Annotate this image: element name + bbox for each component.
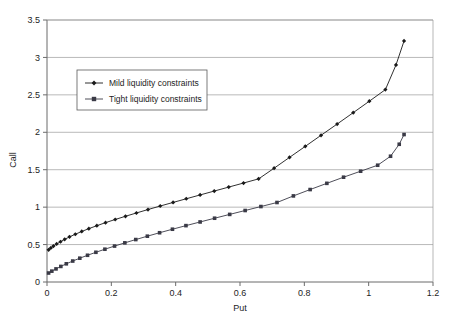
plot-frame xyxy=(47,20,433,282)
chart-container: 00.511.522.533.5 00.20.40.60.811.2 Mild … xyxy=(0,0,455,316)
data-point xyxy=(59,265,63,269)
data-point xyxy=(71,259,75,263)
data-point xyxy=(103,247,107,251)
y-tick-label: 3.5 xyxy=(27,15,40,25)
data-point xyxy=(198,193,202,197)
series-line-1 xyxy=(49,135,404,273)
data-point xyxy=(73,232,77,236)
y-axis-ticks: 00.511.522.533.5 xyxy=(27,15,47,287)
data-point xyxy=(158,231,162,235)
data-point xyxy=(376,163,380,167)
data-point xyxy=(227,185,231,189)
data-point xyxy=(47,271,51,275)
data-point xyxy=(212,189,216,193)
data-point xyxy=(95,224,99,228)
data-point xyxy=(308,188,312,192)
legend-label-0: Mild liquidity constraints xyxy=(109,78,199,88)
x-tick-label: 1.2 xyxy=(427,288,440,298)
x-tick-label: 0 xyxy=(44,288,49,298)
data-point xyxy=(397,142,401,146)
data-point xyxy=(241,181,245,185)
x-tick-label: 0.6 xyxy=(234,288,247,298)
data-point xyxy=(259,205,263,209)
data-point xyxy=(292,194,296,198)
data-point xyxy=(86,253,90,257)
data-point xyxy=(54,267,58,271)
y-tick-label: 0.5 xyxy=(27,240,40,250)
data-point xyxy=(65,262,69,266)
y-tick-label: 0 xyxy=(35,277,40,287)
data-point xyxy=(63,237,67,241)
data-point xyxy=(146,234,150,238)
x-tick-label: 1 xyxy=(366,288,371,298)
x-tick-label: 0.8 xyxy=(298,288,311,298)
data-point xyxy=(58,240,62,244)
chart-plot-area: 00.511.522.533.5 00.20.40.60.811.2 Mild … xyxy=(0,0,455,316)
data-point xyxy=(134,211,138,215)
legend-box xyxy=(77,70,207,110)
gridlines-group xyxy=(47,20,433,245)
data-point xyxy=(394,63,398,67)
y-axis-title: Call xyxy=(8,152,18,168)
data-point xyxy=(213,216,217,220)
data-point xyxy=(134,238,138,242)
y-tick-label: 1.5 xyxy=(27,165,40,175)
data-point xyxy=(171,227,175,231)
y-tick-label: 2 xyxy=(35,127,40,137)
data-point xyxy=(146,207,150,211)
data-point xyxy=(113,244,117,248)
data-point xyxy=(228,213,232,217)
data-point xyxy=(113,217,117,221)
data-point xyxy=(50,269,54,273)
data-point xyxy=(184,197,188,201)
data-point xyxy=(78,256,82,260)
data-point xyxy=(123,241,127,245)
data-point xyxy=(198,220,202,224)
legend-marker-1 xyxy=(92,97,96,101)
y-tick-label: 2.5 xyxy=(27,90,40,100)
data-point xyxy=(94,250,98,254)
data-point xyxy=(359,169,363,173)
data-point xyxy=(87,227,91,231)
x-tick-label: 0.4 xyxy=(169,288,182,298)
data-point xyxy=(171,200,175,204)
data-point xyxy=(80,229,84,233)
data-point xyxy=(325,182,329,186)
data-point xyxy=(103,221,107,225)
y-tick-label: 3 xyxy=(35,53,40,63)
x-axis-ticks: 00.20.40.60.811.2 xyxy=(44,282,439,298)
data-point xyxy=(402,133,406,137)
y-tick-label: 1 xyxy=(35,202,40,212)
data-point xyxy=(184,224,188,228)
x-tick-label: 0.2 xyxy=(105,288,118,298)
legend: Mild liquidity constraintsTight liquidit… xyxy=(77,70,207,110)
data-point xyxy=(389,154,393,158)
data-point xyxy=(123,214,127,218)
legend-label-1: Tight liquidity constraints xyxy=(109,94,202,104)
data-point xyxy=(275,201,279,205)
data-point xyxy=(243,209,247,213)
x-axis-title: Put xyxy=(233,303,247,313)
data-point xyxy=(342,175,346,179)
data-point xyxy=(402,39,406,43)
data-point xyxy=(67,235,71,239)
